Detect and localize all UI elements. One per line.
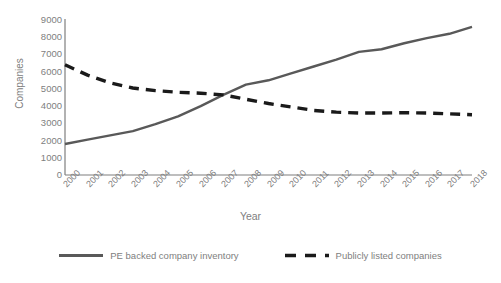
legend-label-publicly-listed: Publicly listed companies xyxy=(336,250,442,261)
legend-item-pe-backed[interactable]: PE backed company inventory xyxy=(59,250,238,261)
dashed-line-swatch xyxy=(285,251,329,260)
series-line-pe-backed xyxy=(65,27,472,144)
legend-item-publicly-listed[interactable]: Publicly listed companies xyxy=(285,250,442,261)
line-chart: Companies 010002000300040005000600070008… xyxy=(0,0,501,283)
chart-legend: PE backed company inventory Publicly lis… xyxy=(0,250,501,261)
plot-area xyxy=(0,0,501,283)
series-line-publicly-listed xyxy=(65,65,472,115)
legend-label-pe-backed: PE backed company inventory xyxy=(110,250,238,261)
solid-line-swatch xyxy=(59,251,103,260)
